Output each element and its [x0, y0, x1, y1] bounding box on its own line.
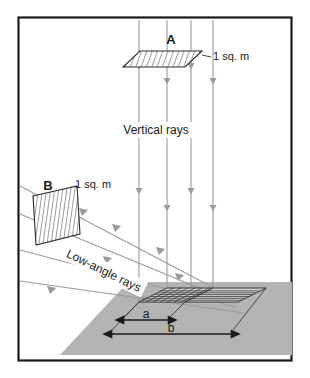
dimension-b-label: b [168, 321, 175, 335]
dimension-a-label: a [143, 307, 150, 321]
diagram-canvas: A 1 sq. m B 1 sq. m [0, 0, 310, 378]
panel-b-label: B [43, 178, 52, 193]
panel-b-surface [33, 186, 80, 245]
vertical-rays-label-group: Vertical rays [114, 122, 198, 138]
panel-a-area-label: 1 sq. m [213, 50, 249, 62]
insolation-diagram: A 1 sq. m B 1 sq. m [0, 0, 310, 378]
panel-a-label: A [166, 32, 176, 47]
vertical-rays-label: Vertical rays [123, 123, 188, 137]
panel-b-area-label: 1 sq. m [75, 178, 111, 190]
